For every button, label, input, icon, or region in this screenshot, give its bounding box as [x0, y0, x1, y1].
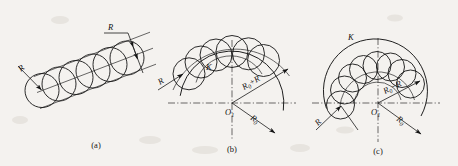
band-rails: [34, 32, 156, 108]
paper-texture: [12, 15, 403, 155]
radius-leader-b: R: [155, 74, 183, 90]
label-center-c: O1: [371, 107, 380, 118]
caption-panel-a: (a): [91, 140, 101, 150]
center-mark-b: O1: [225, 107, 234, 118]
radius-line-b-base: R0: [232, 103, 275, 133]
figure-root: R R (a): [0, 0, 458, 166]
label-base-radius-c: R0: [393, 113, 407, 127]
label-tangent-point-c: K: [347, 32, 355, 42]
radius-leader-a-left: R: [15, 62, 42, 90]
panel-a: R R (a): [15, 22, 156, 150]
radius-line-b-outer: R0+R: [232, 69, 288, 103]
center-mark-c: O1: [371, 107, 380, 118]
technical-drawing-svg: R R (a): [0, 0, 458, 166]
label-base-radius-b: R0: [247, 112, 261, 126]
caption-panel-b: (b): [227, 144, 237, 154]
panel-c: R K R0−R R0 O1 (c): [312, 32, 440, 156]
caption-panel-c: (c): [373, 146, 383, 156]
radius-line-c-base: R0: [378, 103, 421, 134]
panel-b: R K R0+R R0 O1 (b): [155, 36, 296, 155]
circle-chain-b: [173, 36, 280, 90]
label-radius-a-right: R: [107, 22, 114, 32]
label-radius-c: R: [312, 116, 324, 128]
label-radius-a-left: R: [15, 62, 27, 74]
centerlines-c: [312, 38, 440, 142]
label-center-b: O1: [225, 107, 234, 118]
